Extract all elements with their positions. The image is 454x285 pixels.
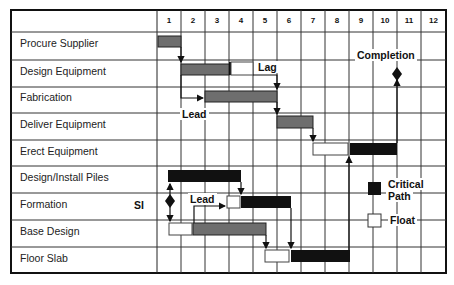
float-floor-slab [265, 250, 289, 262]
float-formation [227, 196, 240, 208]
period-7: 7 [301, 16, 325, 25]
bar-base-design [193, 223, 266, 235]
float-legend-swatch [368, 214, 381, 227]
bar-deliver-equipment [277, 116, 313, 128]
row-label-deliver-equipment: Deliver Equipment [20, 118, 106, 130]
row-label-design-equipment: Design Equipment [20, 65, 106, 77]
lead-annotation-bottom: Lead [188, 193, 217, 205]
period-5: 5 [253, 16, 277, 25]
period-1: 1 [157, 16, 181, 25]
float-design-equipment [231, 62, 253, 75]
critical-formation [241, 196, 291, 208]
period-11: 11 [397, 16, 421, 25]
float-base-design [169, 223, 192, 235]
lag-annotation: Lag [256, 61, 279, 73]
row-label-floor-slab: Floor Slab [20, 252, 68, 264]
critical-design-install-piles [168, 170, 241, 182]
bar-procure-supplier [158, 36, 181, 47]
period-4: 4 [229, 16, 253, 25]
row-label-erect-equipment: Erect Equipment [20, 145, 98, 157]
period-9: 9 [349, 16, 373, 25]
critical-floor-slab [291, 250, 350, 262]
row-label-fabrication: Fabrication [20, 91, 72, 103]
completion-annotation: Completion [355, 49, 417, 61]
critical-legend-swatch [368, 182, 381, 195]
row-label-base-design: Base Design [20, 225, 80, 237]
legend-path-label: Path [386, 190, 413, 202]
period-6: 6 [277, 16, 301, 25]
period-2: 2 [181, 16, 205, 25]
si-annotation: SI [132, 199, 146, 211]
row-label-design-install-piles: Design/Install Piles [20, 171, 109, 183]
period-10: 10 [373, 16, 397, 25]
period-12: 12 [421, 16, 446, 25]
legend-float-label: Float [388, 214, 417, 226]
critical-erect-equipment [350, 143, 397, 155]
legend-critical-label: Critical [386, 178, 426, 190]
bar-fabrication [205, 91, 277, 102]
gantt-chart: 1 2 3 4 5 6 7 8 9 10 11 12 Procure Suppl… [0, 0, 454, 285]
row-label-formation: Formation [20, 198, 67, 210]
period-8: 8 [325, 16, 349, 25]
float-erect-equipment [313, 143, 348, 155]
row-label-procure-supplier: Procure Supplier [20, 37, 98, 49]
period-3: 3 [205, 16, 229, 25]
bar-design-equipment [181, 64, 229, 75]
lead-annotation-top: Lead [180, 108, 209, 120]
